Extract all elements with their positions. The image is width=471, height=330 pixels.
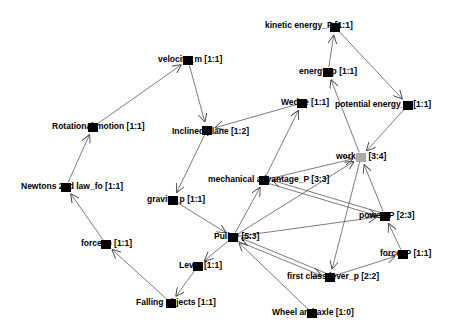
edge-falling-to-forcep bbox=[112, 249, 167, 299]
node-square-icon[interactable] bbox=[228, 233, 238, 242]
edge-lever-to-falling bbox=[176, 270, 195, 296]
node-square-icon[interactable] bbox=[356, 153, 366, 162]
edge-gravity-to-pulley bbox=[177, 203, 226, 233]
graph-node-velocity[interactable]: velocity_m [1:1] bbox=[158, 54, 222, 65]
graph-node-forcep[interactable]: force_p [1:1] bbox=[81, 238, 132, 249]
node-square-icon[interactable] bbox=[166, 299, 176, 308]
edge-rotational-to-velocity bbox=[97, 65, 181, 125]
graph-node-firstclass[interactable]: first class lever_p [2:2] bbox=[287, 271, 379, 282]
node-square-icon[interactable] bbox=[193, 262, 203, 271]
node-square-icon[interactable] bbox=[323, 68, 333, 77]
node-label: potential energy_P [1:1] bbox=[335, 99, 431, 109]
node-square-icon[interactable] bbox=[297, 99, 307, 108]
edge-kinetic-to-potential bbox=[338, 31, 402, 100]
node-square-icon[interactable] bbox=[88, 123, 98, 132]
graph-node-rotational[interactable]: Rotational motion [1:1] bbox=[52, 121, 145, 132]
node-square-icon[interactable] bbox=[325, 273, 335, 282]
edge-pulley-to-lever bbox=[204, 240, 229, 261]
graph-node-lever[interactable]: Lever [1:1] bbox=[179, 260, 222, 271]
edge-forceP-to-power bbox=[388, 223, 400, 249]
node-square-icon[interactable] bbox=[380, 212, 390, 221]
node-square-icon[interactable] bbox=[398, 250, 408, 259]
graph-node-gravity[interactable]: gravity_p [1:1] bbox=[147, 194, 205, 205]
node-label: Rotational motion [1:1] bbox=[52, 121, 145, 131]
edge-power-to-mechanical bbox=[272, 180, 381, 212]
node-square-icon[interactable] bbox=[61, 183, 71, 192]
edge-work-to-energy bbox=[331, 79, 359, 152]
edge-power-to-work bbox=[364, 164, 383, 211]
node-square-icon[interactable] bbox=[168, 196, 178, 205]
concept-graph: kinetic energy_P [1:1]energy_p [1:1]pote… bbox=[0, 0, 471, 330]
graph-node-energy[interactable]: energy_p [1:1] bbox=[299, 66, 357, 77]
node-square-icon[interactable] bbox=[259, 176, 269, 185]
node-square-icon[interactable] bbox=[202, 126, 212, 135]
node-square-icon[interactable] bbox=[183, 56, 193, 65]
edge-pulley-to-mechanical bbox=[235, 187, 260, 233]
graph-node-forceP[interactable]: force_P [1:1] bbox=[380, 248, 432, 259]
edge-potential-to-work bbox=[366, 109, 404, 151]
graph-node-wedge[interactable]: Wedge [1:1] bbox=[281, 97, 329, 108]
graph-node-inclined[interactable]: Inclined plane [1:2] bbox=[172, 126, 249, 136]
edge-work-to-firstclass bbox=[332, 162, 360, 269]
node-square-icon[interactable] bbox=[307, 309, 317, 318]
node-square-icon[interactable] bbox=[330, 23, 340, 32]
node-square-icon[interactable] bbox=[403, 101, 413, 110]
node-square-icon[interactable] bbox=[101, 240, 111, 249]
graph-node-wheel[interactable]: Wheel and axle [1:0] bbox=[272, 307, 354, 318]
graph-node-work[interactable]: work_P [3:4] bbox=[335, 151, 387, 162]
edge-energy-to-kinetic bbox=[329, 35, 334, 67]
edge-wedge-to-inclined bbox=[215, 104, 297, 127]
graph-node-potential[interactable]: potential energy_P [1:1] bbox=[335, 99, 431, 110]
graph-node-mechanical[interactable]: mechanical advantage_P [3:3] bbox=[208, 174, 329, 185]
node-label: Newtons 2nd law_fo [1:1] bbox=[21, 181, 123, 191]
edge-forcep-to-newtons bbox=[71, 194, 104, 240]
edge-newtons-to-rotational bbox=[68, 134, 90, 182]
graph-node-falling[interactable]: Falling objects [1:1] bbox=[136, 297, 216, 308]
edge-mechanical-to-wedge bbox=[266, 110, 298, 175]
graph-node-newtons[interactable]: Newtons 2nd law_fo [1:1] bbox=[21, 181, 123, 192]
graph-node-kinetic[interactable]: kinetic energy_P [1:1] bbox=[265, 20, 353, 32]
graph-node-power[interactable]: power_P [2:3] bbox=[359, 210, 415, 221]
edge-inclined-to-gravity bbox=[176, 134, 204, 192]
edge-firstclass-to-pulley bbox=[241, 238, 326, 273]
graph-node-pulley[interactable]: Pulley [5:3] bbox=[214, 231, 260, 242]
edge-velocity-to-inclined bbox=[189, 65, 205, 122]
